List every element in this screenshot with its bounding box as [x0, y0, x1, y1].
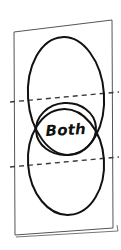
figure-canvas: Both [0, 0, 121, 250]
venn-diagram-svg: Both [0, 0, 121, 250]
both-region-label: Both [45, 120, 86, 140]
page-right-shadow-edge [117, 225, 118, 231]
